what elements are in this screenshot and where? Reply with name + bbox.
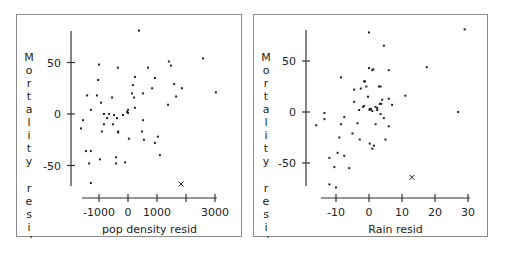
axes — [302, 30, 470, 202]
data-point — [365, 86, 367, 88]
data-point — [368, 31, 370, 33]
data-point — [369, 143, 371, 145]
data-point — [388, 69, 390, 71]
data-point — [380, 103, 382, 105]
data-point — [80, 127, 82, 129]
y-axis-label-char: d — [26, 234, 33, 238]
data-point — [333, 166, 335, 168]
panel-rain: 500-50-100102030MortalityresidRain resid — [253, 14, 488, 237]
y-tick-label: 50 — [47, 57, 61, 70]
data-point — [368, 67, 370, 69]
y-tick-label: 0 — [289, 106, 296, 119]
data-point — [147, 67, 149, 69]
data-point — [131, 92, 133, 94]
data-point — [88, 162, 90, 164]
data-point — [359, 139, 361, 141]
data-point — [315, 124, 317, 126]
x-axis-label: Rain resid — [368, 223, 422, 236]
data-point — [328, 183, 330, 185]
y-axis-label-char: r — [264, 77, 269, 90]
data-point — [356, 122, 358, 124]
data-point — [376, 107, 378, 109]
data-point — [113, 114, 115, 116]
data-point — [367, 96, 369, 98]
data-point — [404, 95, 406, 97]
data-point — [90, 182, 92, 184]
data-point — [335, 186, 337, 188]
data-point — [376, 109, 378, 111]
y-axis-label-char: i — [264, 221, 267, 234]
data-point — [142, 119, 144, 121]
y-axis-label-char: o — [26, 64, 33, 77]
data-point — [124, 161, 126, 163]
y-axis-label-char: M — [261, 51, 271, 64]
data-point — [457, 111, 459, 113]
scatter-plot-rain: 500-50-100102030MortalityresidRain resid — [254, 15, 489, 238]
data-point — [133, 97, 135, 99]
data-point — [385, 139, 387, 141]
data-point — [128, 138, 130, 140]
y-axis-label-char: a — [263, 103, 270, 116]
data-point — [103, 113, 105, 115]
y-tick-label: -50 — [278, 157, 296, 170]
x-tick-label: 3000 — [201, 206, 229, 219]
y-axis-label-char: l — [27, 116, 30, 129]
y-axis-label-char: t — [27, 90, 32, 103]
data-point — [363, 105, 365, 107]
y-tick-label: 50 — [282, 55, 296, 68]
data-point — [391, 104, 393, 106]
data-point — [353, 89, 355, 91]
x-tick-label: 0 — [125, 206, 132, 219]
data-point — [99, 158, 101, 160]
data-point — [381, 99, 383, 101]
x-tick-label: -10 — [327, 206, 345, 219]
data-point — [343, 155, 345, 157]
data-point — [100, 102, 102, 104]
y-axis-label-char: M — [24, 51, 34, 64]
data-point — [371, 148, 373, 150]
x-tick-label: 1000 — [143, 206, 171, 219]
y-axis-label-char: e — [263, 195, 270, 208]
data-point — [116, 117, 118, 119]
data-point — [173, 83, 175, 85]
y-axis-label-char: s — [263, 208, 269, 221]
data-point — [138, 30, 140, 32]
data-point — [372, 68, 374, 70]
data-point — [343, 116, 345, 118]
y-tick-label: 0 — [54, 108, 61, 121]
data-point — [111, 97, 113, 99]
data-point — [371, 110, 373, 112]
y-axis-label-char: r — [264, 182, 269, 195]
y-axis-label-char: i — [264, 129, 267, 142]
data-point — [86, 94, 88, 96]
y-axis-label-char: y — [26, 155, 33, 168]
data-point — [115, 156, 117, 158]
data-point — [98, 64, 100, 66]
data-point — [175, 95, 177, 97]
data-point — [380, 86, 382, 88]
data-point — [82, 119, 84, 121]
data-point — [337, 152, 339, 154]
data-point — [132, 84, 134, 86]
data-point — [106, 117, 108, 119]
data-point — [358, 109, 360, 111]
data-point — [127, 112, 129, 114]
y-axis-label-char: a — [26, 103, 33, 116]
panel-pop-density: 500-50-1000010003000Mortalityresidpop de… — [16, 14, 242, 237]
outlier-x-marker — [409, 175, 414, 180]
data-point — [352, 132, 354, 134]
data-point — [115, 162, 117, 164]
y-axis-label-char: t — [264, 90, 269, 103]
data-point — [338, 137, 340, 139]
data-points — [315, 28, 466, 188]
data-point — [167, 104, 169, 106]
data-point — [181, 87, 183, 89]
data-point — [202, 57, 204, 59]
data-point — [170, 65, 172, 67]
data-points — [80, 30, 217, 184]
y-axis-label-char: o — [263, 64, 270, 77]
data-point — [96, 94, 98, 96]
data-point — [97, 79, 99, 81]
data-point — [168, 60, 170, 62]
data-point — [340, 76, 342, 78]
